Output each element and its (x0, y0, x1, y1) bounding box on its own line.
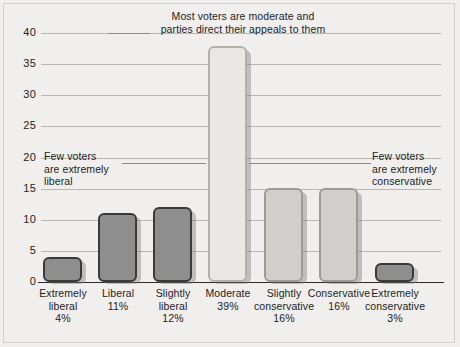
bar-liberal[interactable] (98, 213, 137, 282)
x-label-value-liberal: 11% (108, 300, 129, 312)
x-label-name-moderate: Moderate (205, 287, 250, 299)
bar-conservative[interactable] (319, 188, 358, 282)
x-label-value-extremely-conservative: 3% (387, 312, 402, 324)
y-tick-label-0: 0 (10, 275, 36, 287)
x-label-name-liberal: Liberal (102, 287, 134, 299)
x-label-value-conservative: 16% (328, 300, 349, 312)
x-label-extremely-conservative: Extremely conservative 3% (360, 287, 430, 325)
y-tick-label-20: 20 (10, 151, 36, 163)
y-tick-label-5: 5 (10, 244, 36, 256)
x-label-liberal: Liberal 11% (87, 287, 149, 312)
y-tick-label-25: 25 (10, 119, 36, 131)
y-tick-label-10: 10 (10, 213, 36, 225)
x-label-value-moderate: 39% (217, 300, 238, 312)
bar-slightly-liberal[interactable] (153, 207, 192, 282)
leader-line-top (108, 33, 150, 34)
x-label-extremely-liberal: Extremely liberal 4% (32, 287, 94, 325)
bar-extremely-conservative[interactable] (375, 263, 414, 282)
y-tick-label-35: 35 (10, 57, 36, 69)
bar-slightly-conservative[interactable] (264, 188, 303, 282)
annotation-extremely-liberal: Few voters are extremely liberal (44, 150, 122, 188)
x-label-slightly-liberal: Slightly liberal 12% (142, 287, 204, 325)
x-label-value-extremely-liberal: 4% (55, 312, 70, 324)
y-tick-label-30: 30 (10, 88, 36, 100)
bar-moderate[interactable] (208, 46, 247, 282)
plot-area: 40 35 30 25 20 15 10 5 0 (0, 0, 460, 347)
leader-line-left (122, 163, 206, 164)
x-label-name-extremely-liberal: Extremely liberal (39, 287, 87, 312)
x-label-name-extremely-conservative: Extremely conservative (365, 287, 425, 312)
y-tick-label-15: 15 (10, 182, 36, 194)
annotation-extremely-conservative: Few voters are extremely conservative (372, 150, 454, 188)
annotation-moderate: Most voters are moderate and parties dir… (148, 10, 338, 35)
bar-extremely-liberal[interactable] (43, 257, 82, 282)
bar-chart-figure: 40 35 30 25 20 15 10 5 0 (0, 0, 460, 347)
x-label-value-slightly-liberal: 12% (162, 312, 183, 324)
x-label-name-slightly-liberal: Slightly liberal (156, 287, 191, 312)
x-label-value-slightly-conservative: 16% (273, 312, 294, 324)
leader-line-right (249, 163, 371, 164)
y-tick-label-40: 40 (10, 26, 36, 38)
